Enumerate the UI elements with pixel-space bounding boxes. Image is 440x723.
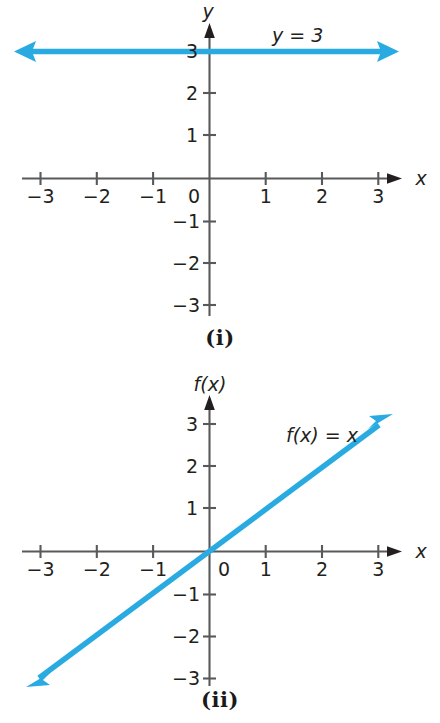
y-tick-label-neg1: −1	[172, 210, 200, 232]
x-axis-label: x	[414, 540, 427, 562]
x-tick-label-neg1: −1	[139, 558, 167, 580]
figure-panel-ii: −3 −2 −1 1 2 3 0 3 2 1 −1 −2 −3 f(x) x f…	[0, 360, 440, 723]
x-tick-label-pos1: 1	[260, 558, 272, 580]
x-tick-label-neg1: −1	[139, 185, 167, 207]
figure-caption-i: (i)	[0, 325, 440, 350]
origin-label: 0	[218, 558, 230, 580]
y-tick-label-neg2: −2	[172, 625, 200, 647]
equation-label-f-of-x-equals-x: f(x) = x	[286, 424, 359, 446]
origin-label: 0	[188, 185, 200, 207]
x-tick-label-pos3: 3	[372, 185, 384, 207]
graph-ii-canvas: −3 −2 −1 1 2 3 0 3 2 1 −1 −2 −3 f(x) x f…	[0, 360, 440, 690]
y-tick-label-pos1: 1	[186, 497, 198, 519]
x-tick-label-neg3: −3	[26, 185, 54, 207]
x-tick-label-pos2: 2	[316, 185, 328, 207]
y-tick-label-neg2: −2	[172, 252, 200, 274]
x-tick-label-pos3: 3	[372, 558, 384, 580]
x-axis-arrowhead-icon	[387, 173, 402, 184]
y-tick-label-pos2: 2	[186, 82, 198, 104]
y-axis-label: y	[201, 0, 214, 22]
graph-i-canvas: −3 −2 −1 1 2 3 0 3 2 1 −1 −2 −3 y x y = …	[0, 0, 440, 325]
y-axis-arrowhead-icon	[204, 23, 215, 38]
x-tick-label-neg2: −2	[83, 185, 111, 207]
y-tick-label-pos3: 3	[186, 40, 198, 62]
y-tick-label-neg3: −3	[172, 294, 200, 316]
graph-line-upper-right-arrowhead-icon	[368, 414, 393, 429]
graph-line-lower-left-arrowhead-icon	[26, 672, 51, 687]
x-tick-label-pos2: 2	[316, 558, 328, 580]
y-axis-arrowhead-icon	[204, 395, 215, 410]
x-axis-label: x	[414, 167, 427, 189]
y-tick-label-neg1: −1	[172, 583, 200, 605]
equation-label-y-equals-3: y = 3	[271, 24, 323, 46]
figure-caption-ii: (ii)	[0, 687, 440, 712]
x-tick-label-neg2: −2	[83, 558, 111, 580]
y-tick-label-pos3: 3	[186, 413, 198, 435]
x-axis-arrowhead-icon	[387, 546, 402, 557]
y-tick-label-pos1: 1	[186, 124, 198, 146]
y-tick-label-pos2: 2	[186, 455, 198, 477]
x-tick-label-neg3: −3	[26, 558, 54, 580]
x-tick-label-pos1: 1	[260, 185, 272, 207]
y-axis-label: f(x)	[194, 373, 227, 395]
figure-panel-i: −3 −2 −1 1 2 3 0 3 2 1 −1 −2 −3 y x y = …	[0, 0, 440, 360]
y-tick-label-neg3: −3	[172, 667, 200, 689]
